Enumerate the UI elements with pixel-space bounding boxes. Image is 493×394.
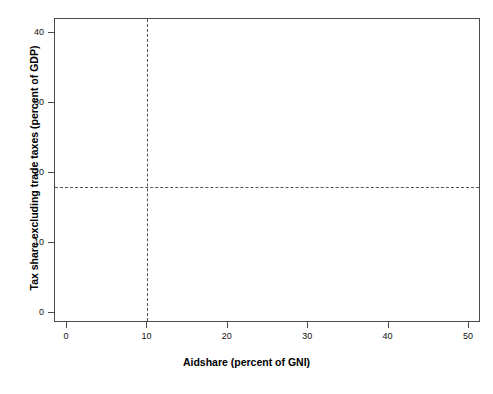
horizontal-reference-line (55, 187, 479, 188)
x-tick-mark (388, 322, 389, 328)
plot-area (54, 18, 480, 322)
x-tick-mark (307, 322, 308, 328)
y-tick-mark (48, 172, 54, 173)
x-tick-label: 40 (383, 331, 393, 341)
x-tick-mark (468, 322, 469, 328)
x-tick-mark (227, 322, 228, 328)
y-tick-mark (48, 312, 54, 313)
x-tick-mark (146, 322, 147, 328)
x-axis-label: Aidshare (percent of GNI) (0, 356, 493, 368)
x-tick-label: 10 (141, 331, 151, 341)
x-tick-label: 50 (463, 331, 473, 341)
vertical-reference-line (147, 19, 148, 321)
scatter-plot-figure: 01020304050 010203040 Aidshare (percent … (0, 0, 493, 394)
x-tick-label: 20 (222, 331, 232, 341)
x-tick-mark (66, 322, 67, 328)
y-axis-label: Tax share excluding trade taxes (percent… (28, 18, 40, 318)
x-tick-label: 30 (302, 331, 312, 341)
y-tick-mark (48, 102, 54, 103)
x-tick-label: 0 (64, 331, 69, 341)
y-tick-mark (48, 32, 54, 33)
y-tick-mark (48, 242, 54, 243)
